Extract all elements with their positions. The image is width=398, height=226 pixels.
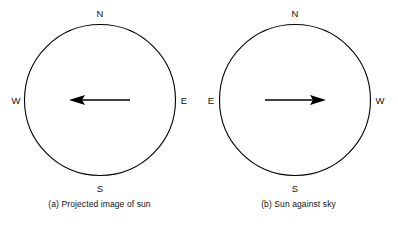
compass-label-north-a: N	[97, 8, 104, 19]
compass-label-left-a: W	[12, 95, 21, 106]
compass-label-south-b: S	[292, 183, 298, 194]
compass-label-north-b: N	[292, 8, 299, 19]
panel-b: N S E W (b) Sun against sky	[199, 0, 398, 226]
compass-diagram-b: N S E W	[199, 0, 398, 196]
sun-compass-figure: N S W E (a) Projected image of sun N S E…	[0, 0, 398, 226]
compass-label-right-a: E	[181, 95, 187, 106]
panel-caption-a: (a) Projected image of sun	[0, 198, 199, 210]
compass-label-south-a: S	[97, 183, 103, 194]
compass-label-right-b: W	[376, 95, 385, 106]
compass-diagram-a: N S W E	[0, 0, 199, 196]
compass-label-left-b: E	[208, 95, 214, 106]
panel-a: N S W E (a) Projected image of sun	[0, 0, 199, 226]
panel-caption-b: (b) Sun against sky	[199, 198, 398, 210]
